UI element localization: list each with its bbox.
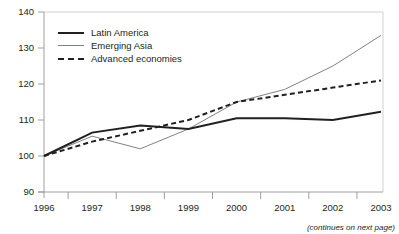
y-tick-label: 130 — [4, 43, 34, 53]
x-tick-label: 1997 — [72, 203, 112, 213]
legend-line-sample — [58, 58, 84, 60]
series-line-latin-america — [44, 112, 381, 156]
x-tick-label: 2002 — [313, 203, 353, 213]
x-tick-label: 1999 — [168, 203, 208, 213]
x-tick-label: 1996 — [24, 203, 64, 213]
y-tick-label: 90 — [4, 187, 34, 197]
continues-note: (continues on next page) — [307, 223, 395, 232]
x-tick-label: 2000 — [217, 203, 257, 213]
figure-container: 14013012011010090 1996199719981999200020… — [0, 0, 399, 234]
legend-item: Emerging Asia — [58, 39, 238, 52]
legend-line-sample — [58, 32, 84, 34]
legend-label: Latin America — [91, 26, 149, 39]
y-tick-label: 140 — [4, 7, 34, 17]
chart-legend: Latin AmericaEmerging AsiaAdvanced econo… — [58, 26, 238, 65]
x-tick-label: 2001 — [265, 203, 305, 213]
y-tick-label: 100 — [4, 151, 34, 161]
legend-item: Latin America — [58, 26, 238, 39]
y-tick-label: 120 — [4, 79, 34, 89]
series-line-advanced-economies — [44, 80, 381, 156]
x-tick-label: 1998 — [120, 203, 160, 213]
legend-label: Advanced economies — [91, 52, 182, 65]
y-tick-label: 110 — [4, 115, 34, 125]
legend-label: Emerging Asia — [91, 39, 152, 52]
x-tick-label: 2003 — [361, 203, 399, 213]
legend-item: Advanced economies — [58, 52, 238, 65]
legend-line-sample — [58, 45, 84, 46]
